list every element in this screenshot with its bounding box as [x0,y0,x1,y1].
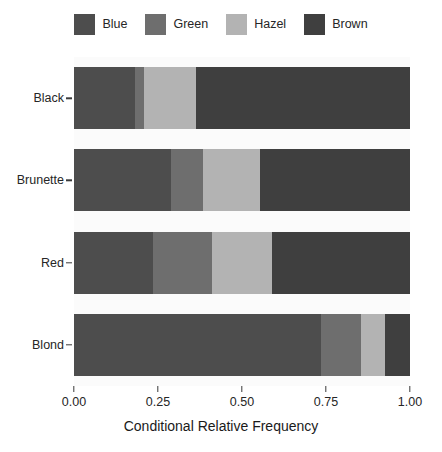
legend-entry-green[interactable]: Green [145,14,208,35]
bar-segment-red-brown[interactable] [272,232,410,294]
y-tick-label-blond: Blond [32,338,64,352]
x-tick-label-1.00: 1.00 [398,395,422,409]
bar-segment-brunette-brown[interactable] [260,149,410,211]
bar-segment-brunette-blue[interactable] [74,149,171,211]
y-tick-mark [66,180,72,181]
y-tick-mark [66,97,72,98]
x-tick-label-0.50: 0.50 [230,395,254,409]
stacked-bar-chart: BlueGreenHazelBrown BlackBrunetteRedBlon… [0,0,442,452]
x-tick-mark [157,386,158,392]
bar-row-red [74,232,410,294]
bar-segment-blond-blue[interactable] [74,314,321,376]
bar-row-brunette [74,149,410,211]
bar-segment-blond-hazel[interactable] [361,314,385,376]
legend-swatch-green [145,14,166,35]
chart-legend: BlueGreenHazelBrown [0,14,442,35]
bar-row-black [74,67,410,129]
x-axis: 0.000.250.500.751.00 [74,386,410,416]
legend-label: Blue [102,14,127,35]
x-tick-mark [325,386,326,392]
legend-entry-brown[interactable]: Brown [304,14,367,35]
legend-swatch-hazel [226,14,247,35]
x-tick-label-0.75: 0.75 [314,395,338,409]
x-tick-mark [73,386,74,392]
y-tick-mark [66,262,72,263]
legend-swatch-blue [74,14,95,35]
x-tick-mark [409,386,410,392]
bar-segment-black-blue[interactable] [74,67,135,129]
bar-segment-black-hazel[interactable] [144,67,196,129]
y-tick-mark [66,344,72,345]
bar-segment-red-hazel[interactable] [212,232,271,294]
legend-entry-blue[interactable]: Blue [74,14,127,35]
x-tick-mark [241,386,242,392]
x-axis-title: Conditional Relative Frequency [0,418,442,434]
legend-label: Brown [332,14,367,35]
bar-segment-black-green[interactable] [135,67,144,129]
bar-segment-blond-brown[interactable] [385,314,410,376]
bar-segment-red-green[interactable] [153,232,212,294]
legend-swatch-brown [304,14,325,35]
y-axis: BlackBrunetteRedBlond [0,57,74,386]
legend-label: Green [173,14,208,35]
y-tick-label-black: Black [33,91,64,105]
bar-segment-brunette-green[interactable] [171,149,203,211]
bar-row-blond [74,314,410,376]
x-tick-label-0.00: 0.00 [62,395,86,409]
bar-segment-black-brown[interactable] [196,67,410,129]
legend-label: Hazel [254,14,286,35]
plot-panel [74,57,410,386]
x-tick-label-0.25: 0.25 [146,395,170,409]
bar-segment-brunette-hazel[interactable] [203,149,260,211]
y-tick-label-brunette: Brunette [17,173,64,187]
legend-entry-hazel[interactable]: Hazel [226,14,286,35]
bar-segment-blond-green[interactable] [321,314,361,376]
bar-segment-red-blue[interactable] [74,232,153,294]
y-tick-label-red: Red [41,256,64,270]
